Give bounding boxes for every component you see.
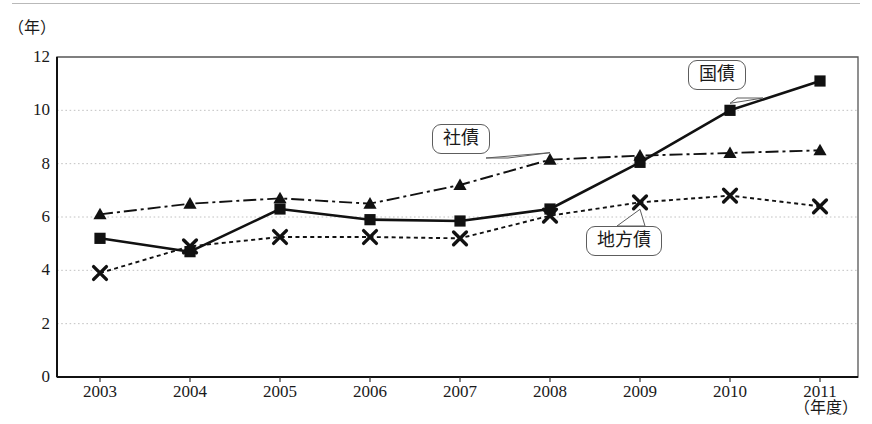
callout-shasai: 社債 [432,124,490,154]
callout-kokusai: 国債 [688,60,746,90]
callout-chihosai: 地方債 [586,226,662,256]
line-chart: （年） （年度） 0 2 4 6 8 10 12 2003 2004 2005 … [0,0,872,424]
series-layer [93,75,826,279]
callout-leaders [486,98,763,226]
